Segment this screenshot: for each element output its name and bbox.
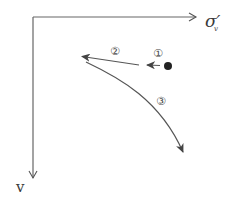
diagram-canvas: σ′ v v ① ② ③ <box>0 0 238 205</box>
diagram-svg: σ′ v v ① ② ③ <box>0 0 238 205</box>
x-axis-label: σ′ <box>205 11 221 31</box>
x-axis-label-subscript: v <box>214 25 218 33</box>
path-2-label: ② <box>110 45 120 58</box>
y-axis-label: v <box>15 178 25 196</box>
path-1-label: ① <box>153 47 163 60</box>
state-point-dot <box>164 62 172 70</box>
path-3-curve <box>86 62 183 152</box>
path-1-arrow <box>147 65 160 66</box>
path-3-label: ③ <box>156 95 166 108</box>
